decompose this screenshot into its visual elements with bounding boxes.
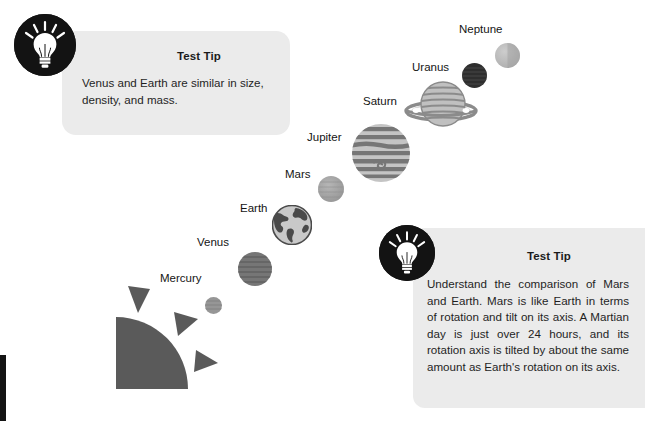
tip-body: Understand the comparison of Mars and Ea… (427, 276, 629, 376)
test-tip-callout-mars-earth: Test Tip Understand the comparison of Ma… (413, 228, 645, 408)
planet-label-uranus: Uranus (412, 61, 449, 73)
planet-mercury (205, 297, 222, 314)
planet-earth (272, 205, 312, 245)
page-edge-bar (0, 355, 6, 421)
planet-label-neptune: Neptune (459, 23, 502, 35)
planet-label-jupiter: Jupiter (307, 131, 342, 143)
lightbulb-icon (379, 225, 435, 281)
tip-title: Test Tip (413, 250, 645, 262)
planet-label-mars: Mars (285, 168, 311, 180)
planet-venus (238, 252, 272, 286)
tip-title: Test Tip (62, 50, 290, 62)
page-canvas: Test Tip Venus and Earth are similar in … (0, 0, 645, 421)
planet-label-earth: Earth (240, 202, 268, 214)
lightbulb-icon (14, 14, 76, 76)
planet-label-venus: Venus (197, 236, 229, 248)
planet-neptune (495, 43, 520, 68)
tip-body: Venus and Earth are similar in size, den… (82, 75, 272, 108)
sun-icon (116, 286, 218, 389)
planet-jupiter (352, 124, 410, 182)
test-tip-callout-venus-earth: Test Tip Venus and Earth are similar in … (62, 31, 290, 135)
planet-uranus (462, 63, 487, 88)
planet-mars (318, 176, 344, 202)
planet-label-mercury: Mercury (160, 272, 202, 284)
planet-label-saturn: Saturn (363, 95, 397, 107)
